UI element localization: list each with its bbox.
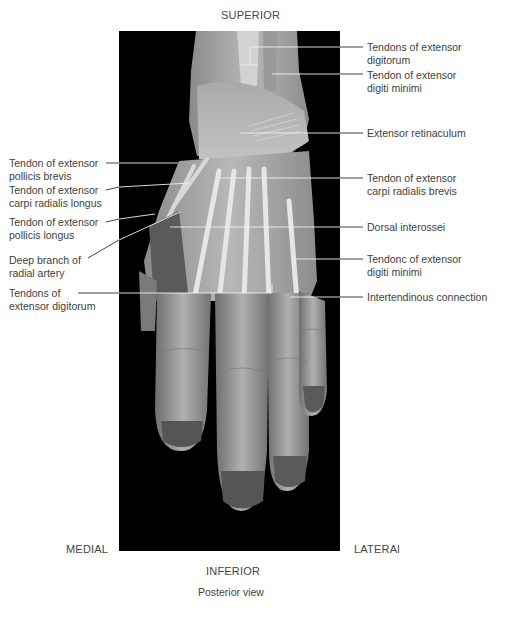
dissection-photo	[119, 31, 340, 551]
label-extensor-retinaculum: Extensor retinaculum	[367, 127, 466, 140]
label-intertendinous-connection: Intertendinous connection	[367, 291, 487, 304]
label-tendon-ecrl: Tendon of extensor carpi radialis longus	[9, 184, 102, 210]
label-tendons-extensor-digitorum-bottom: Tendons of extensor digitorum	[9, 287, 95, 313]
orientation-lateral: LATERAl	[354, 543, 400, 555]
orientation-medial: MEDIAL	[66, 543, 108, 555]
label-deep-branch-radial-artery: Deep branch of radial artery	[9, 254, 81, 280]
figure-caption: Posterior view	[198, 586, 264, 598]
label-dorsal-interossei: Dorsal interossei	[367, 221, 445, 234]
hand-illustration	[119, 31, 340, 551]
label-tendon-epl: Tendon of extensor pollicis longus	[9, 216, 98, 242]
label-tendons-extensor-digiti-minimi-bottom: Tendonc of extensor digiti minimi	[367, 253, 462, 279]
label-tendon-ecrb: Tendon of extensor carpi radialis brevis	[367, 172, 457, 198]
orientation-superior: SUPERIOR	[221, 9, 280, 21]
orientation-inferior: INFERIOR	[206, 565, 260, 577]
label-tendons-extensor-digitorum-top: Tendons of extensor digitorum	[367, 41, 462, 67]
label-tendon-epb: Tendon of extensor pollicis brevis	[9, 157, 98, 183]
label-tendon-extensor-digiti-minimi-top: Tendon of extensor digiti minimi	[367, 69, 456, 95]
